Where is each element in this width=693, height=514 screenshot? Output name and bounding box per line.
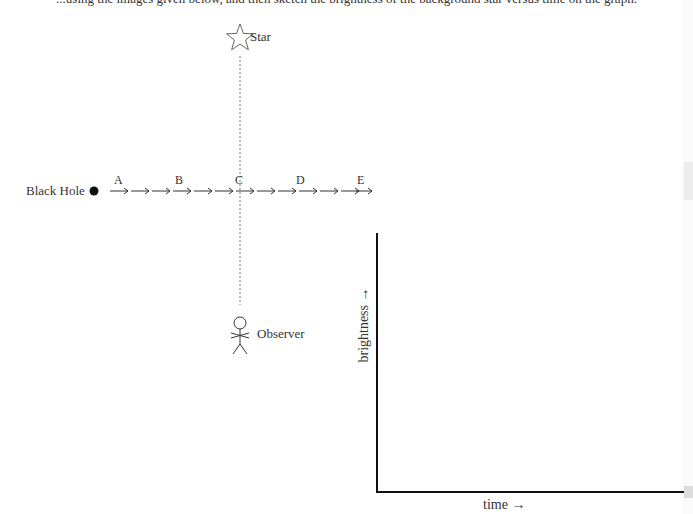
observer-label: Observer [257, 326, 305, 342]
x-axis-label-time: time → [483, 497, 525, 513]
lensing-diagram [0, 0, 693, 514]
path-arrows [110, 188, 372, 194]
path-label-c: C [235, 173, 243, 188]
path-label-b: B [175, 173, 183, 188]
black-hole-label: Black Hole [26, 183, 85, 199]
black-hole-dot [90, 187, 99, 196]
brightness-time-graph-axes [376, 233, 684, 492]
path-label-d: D [296, 173, 305, 188]
star-label: Star [250, 29, 271, 45]
y-axis-label-brightness: brightness → [356, 275, 372, 375]
observer-stick-figure-icon [231, 317, 249, 354]
path-label-e: E [357, 173, 364, 188]
path-label-a: A [114, 173, 123, 188]
